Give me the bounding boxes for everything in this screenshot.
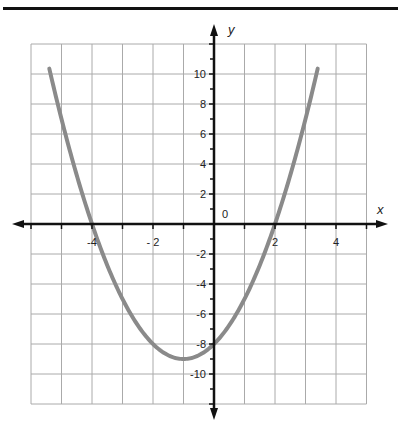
x-tick-label: 2 (272, 236, 278, 248)
x-tick-label: 4 (333, 236, 339, 248)
x-axis-left-arrow-icon (12, 220, 24, 228)
y-axis-label: y (227, 22, 236, 37)
y-tick-label: -4 (196, 278, 206, 290)
y-tick-label: -8 (196, 338, 206, 350)
x-tick-label: -4 (87, 236, 97, 248)
y-tick-label: -6 (196, 308, 206, 320)
y-tick-label: 10 (194, 68, 206, 80)
axes (12, 24, 388, 420)
y-tick-label: -2 (196, 248, 206, 260)
y-axis-up-arrow-icon (210, 24, 218, 36)
tick-labels: -4- 224108642-2-4-6-8-100xy (87, 22, 384, 380)
y-tick-label: 6 (200, 128, 206, 140)
y-axis-down-arrow-icon (210, 408, 218, 420)
origin-label: 0 (222, 208, 228, 220)
y-tick-label: 4 (200, 158, 206, 170)
y-tick-label: 8 (200, 98, 206, 110)
x-tick-label: - 2 (147, 236, 160, 248)
y-tick-label: -10 (190, 368, 206, 380)
x-axis-right-arrow-icon (376, 220, 388, 228)
x-axis-label: x (376, 202, 384, 217)
coordinate-plane: -4- 224108642-2-4-6-8-100xy (0, 0, 398, 427)
y-tick-label: 2 (200, 188, 206, 200)
